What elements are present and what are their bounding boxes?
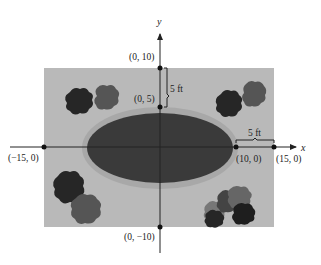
label-10-0: (10, 0) — [236, 154, 261, 165]
ellipse-pool-diagram: x y 5 ft 5 ft (0, 10) (0, 5) (−15, 0) (1… — [0, 0, 321, 265]
dimension-vertical-label: 5 ft — [170, 84, 183, 94]
point-0-10 — [158, 66, 163, 71]
point-15-0 — [272, 145, 277, 150]
x-axis-label: x — [300, 142, 306, 153]
dimension-horizontal-label: 5 ft — [248, 128, 261, 138]
label-0-5: (0, 5) — [134, 94, 155, 105]
label-m15-0: (−15, 0) — [8, 153, 39, 164]
label-15-0: (15, 0) — [276, 154, 301, 165]
label-0-10: (0, 10) — [129, 52, 154, 63]
point-0-5 — [158, 105, 163, 110]
label-0-m10: (0, −10) — [124, 232, 155, 243]
point-0-m10 — [158, 225, 163, 230]
y-axis-label: y — [156, 16, 162, 27]
point-m15-0 — [42, 145, 47, 150]
point-10-0 — [234, 145, 239, 150]
